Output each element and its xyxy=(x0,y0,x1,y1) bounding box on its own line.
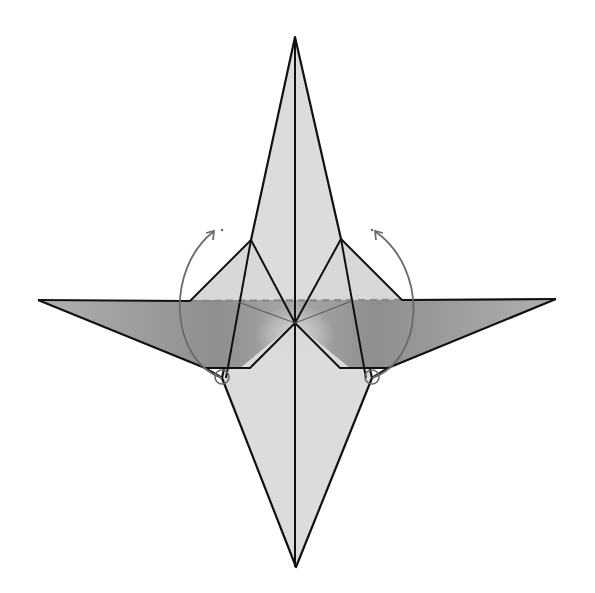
origami-diagram xyxy=(0,0,595,593)
diagram-canvas xyxy=(0,0,595,593)
